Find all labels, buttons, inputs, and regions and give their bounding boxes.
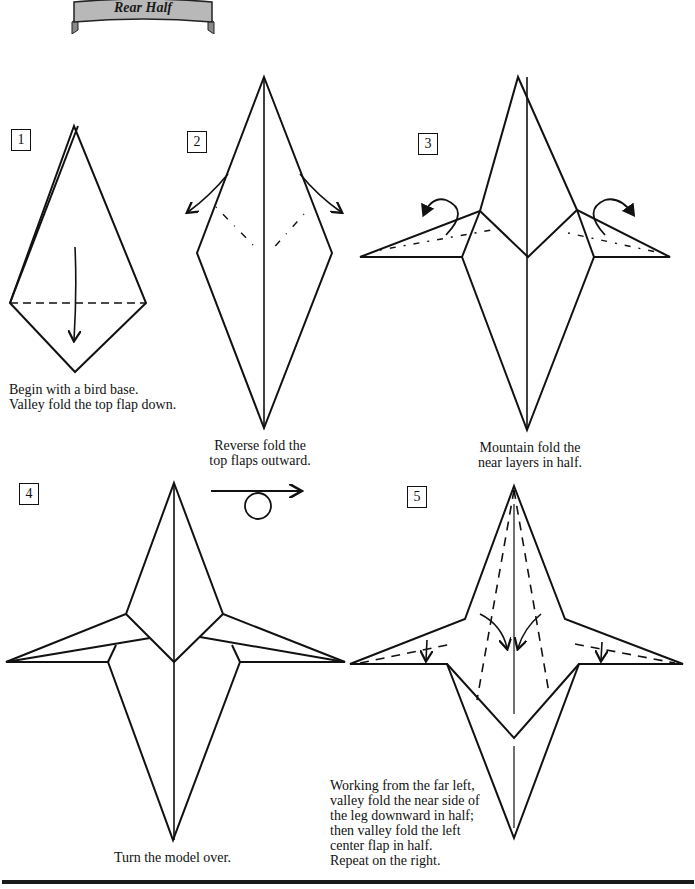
- step-2-diagram: [188, 77, 341, 428]
- step-4-diagram: [6, 483, 345, 840]
- step-5-caption: Working from the far left, valley fold t…: [330, 778, 480, 868]
- footer-rule: [2, 880, 694, 884]
- step-4-caption: Turn the model over.: [114, 850, 231, 865]
- step-3-caption: Mountain fold the near layers in half.: [460, 440, 600, 470]
- step-3-number: 3: [418, 133, 438, 155]
- step-2-caption: Reverse fold the top flaps outward.: [200, 438, 320, 468]
- step-1-diagram: [10, 126, 146, 372]
- step-1-number: 1: [11, 129, 31, 151]
- step-5-number: 5: [407, 486, 427, 508]
- step-3-diagram: [360, 77, 670, 430]
- step-4-number: 4: [19, 483, 39, 505]
- turn-over-symbol: [211, 491, 300, 519]
- step-2-number: 2: [187, 131, 207, 153]
- step-1-caption: Begin with a bird base. Valley fold the …: [9, 382, 176, 412]
